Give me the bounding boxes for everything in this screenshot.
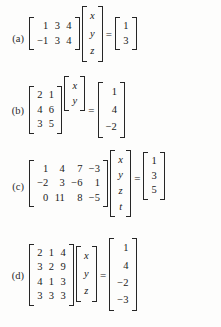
- matrix-cell: 4: [34, 103, 46, 118]
- table-row: 1: [148, 154, 160, 169]
- table-row: t: [115, 199, 126, 215]
- equation-row-c: (c) 1 4 7 −3 −2 3 −6 1 0 11 8: [0, 150, 221, 217]
- equals-sign: =: [104, 28, 114, 40]
- table-row: x: [69, 78, 80, 94]
- table-row: 4 1 3: [34, 275, 69, 290]
- vector-cell: 1: [120, 19, 132, 34]
- coefficient-matrix-d: 2 1 4 3 2 9 4 1 3 3 3 3: [29, 244, 74, 306]
- unknown-vector-b: x y: [64, 76, 85, 111]
- vector-cell: 1: [114, 240, 132, 257]
- vector-table: 1 3 5: [148, 154, 160, 198]
- matrix-cell: 5: [46, 117, 58, 132]
- vector-cell: y: [69, 94, 80, 110]
- matrix-cell: 3: [34, 289, 46, 304]
- matrix-cell: 2: [46, 260, 58, 275]
- table-row: y: [87, 25, 98, 42]
- equals-sign: =: [98, 269, 108, 281]
- problem-label-d: (d): [0, 268, 28, 281]
- matrix-cell: −5: [86, 191, 104, 206]
- vector-table: x y z: [87, 8, 98, 60]
- unknown-vector-a: x y z: [82, 6, 103, 62]
- matrix-cell: 3: [46, 289, 58, 304]
- table-row: x: [115, 152, 126, 168]
- table-row: z: [115, 183, 126, 199]
- vector-cell: t: [115, 199, 126, 215]
- matrix-cell: 1: [86, 176, 104, 191]
- table-row: 3 5: [34, 117, 57, 132]
- vector-cell: x: [87, 8, 98, 25]
- table-row: 4: [114, 257, 132, 274]
- matrix-cell: 2: [34, 246, 46, 261]
- matrix-cell: −3: [86, 162, 104, 177]
- matrix-cell: 3: [52, 19, 64, 34]
- equals-sign: =: [132, 172, 142, 184]
- matrix-cell: 4: [52, 162, 69, 177]
- vector-cell: −2: [114, 275, 132, 292]
- table-row: 1 4 7 −3: [34, 162, 103, 177]
- table-row: −1 3 4: [34, 34, 75, 49]
- table-row: 2 1 4: [34, 246, 69, 261]
- table-row: 3: [148, 169, 160, 184]
- vector-cell: y: [81, 265, 92, 282]
- vector-cell: 5: [148, 183, 160, 198]
- vector-table: x y z: [81, 248, 92, 300]
- vector-table: x y z t: [115, 152, 126, 215]
- matrix-cell: 3: [57, 275, 69, 290]
- vector-table: 1 4 −2 −3: [114, 240, 132, 309]
- table-row: 1 3 4: [34, 19, 75, 34]
- matrix-cell: 3: [34, 117, 46, 132]
- rhs-vector-b: 1 4 −2: [98, 82, 126, 138]
- matrix-cell: 8: [68, 191, 86, 206]
- vector-cell: z: [81, 283, 92, 300]
- table-row: 3 3 3: [34, 289, 69, 304]
- rhs-vector-d: 1 4 −2 −3: [109, 238, 137, 311]
- vector-cell: z: [87, 43, 98, 60]
- matrix-table: 2 1 4 6 3 5: [34, 88, 57, 132]
- problem-label-a: (a): [0, 23, 28, 44]
- matrix-cell: 6: [46, 103, 58, 118]
- equals-sign: =: [86, 104, 96, 116]
- matrix-cell: 1: [46, 275, 58, 290]
- table-row: −2: [114, 275, 132, 292]
- rhs-vector-c: 1 3 5: [143, 152, 165, 200]
- equation-row-a: (a) 1 3 4 −1 3 4 x y z =: [0, 6, 221, 62]
- table-row: z: [81, 283, 92, 300]
- vector-cell: 4: [103, 101, 121, 118]
- problem-label-c: (c): [0, 175, 28, 192]
- matrix-cell: 1: [34, 19, 52, 34]
- table-row: 1: [103, 84, 121, 101]
- table-row: 1: [120, 19, 132, 34]
- vector-cell: 3: [148, 169, 160, 184]
- matrix-cell: 3: [57, 289, 69, 304]
- table-row: z: [87, 43, 98, 60]
- vector-cell: 3: [120, 34, 132, 49]
- unknown-vector-c: x y z t: [110, 150, 131, 217]
- vector-cell: 1: [103, 84, 121, 101]
- matrix-table: 1 4 7 −3 −2 3 −6 1 0 11 8 −5: [34, 162, 103, 206]
- vector-table: 1 3: [120, 19, 132, 48]
- matrix-cell: −2: [34, 176, 52, 191]
- matrix-cell: 4: [57, 246, 69, 261]
- vector-cell: −2: [103, 119, 121, 136]
- rhs-vector-a: 1 3: [115, 17, 137, 50]
- table-row: x: [81, 248, 92, 265]
- table-row: −2 3 −6 1: [34, 176, 103, 191]
- matrix-cell: 4: [63, 34, 75, 49]
- vector-cell: y: [87, 25, 98, 42]
- vector-table: 1 4 −2: [103, 84, 121, 136]
- vector-cell: y: [115, 168, 126, 184]
- table-row: −3: [114, 292, 132, 309]
- table-row: 2 1: [34, 88, 57, 103]
- matrix-cell: 3: [52, 34, 64, 49]
- table-row: y: [81, 265, 92, 282]
- matrix-cell: 2: [34, 88, 46, 103]
- matrix-cell: 1: [46, 246, 58, 261]
- table-row: 5: [148, 183, 160, 198]
- vector-cell: x: [69, 78, 80, 94]
- table-row: y: [115, 168, 126, 184]
- vector-cell: z: [115, 183, 126, 199]
- coefficient-matrix-b: 2 1 4 6 3 5: [29, 86, 62, 134]
- table-row: 0 11 8 −5: [34, 191, 103, 206]
- equation-row-b: (b) 2 1 4 6 3 5 x y: [0, 82, 221, 138]
- matrix-cell: 3: [34, 260, 46, 275]
